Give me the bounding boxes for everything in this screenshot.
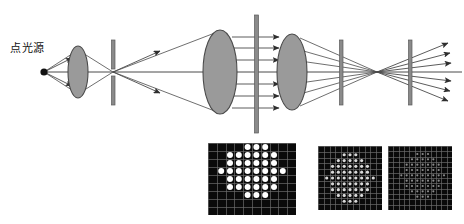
focusing-lens <box>277 34 307 110</box>
optical-diagram: 点光源 <box>0 0 464 224</box>
expanding-ray-upper-arrow <box>113 51 160 72</box>
spot-array-panel-mid <box>318 146 382 210</box>
collimating-lens-large <box>203 30 237 114</box>
grating-plate <box>255 15 259 133</box>
expanding-ray-lower-arrow <box>113 72 160 93</box>
spot-array-panels <box>0 140 464 224</box>
spot-array-panel-near <box>208 143 296 215</box>
output-ray-2 <box>377 53 450 72</box>
stop-aperture <box>340 40 344 105</box>
collimator-lens-small <box>68 46 88 98</box>
output-aperture <box>409 40 413 105</box>
converging-ray-5 <box>300 72 377 94</box>
pinhole-aperture-upper <box>112 40 116 69</box>
point-source-dot <box>40 68 47 75</box>
point-source-label: 点光源 <box>10 42 45 55</box>
output-ray-5 <box>377 72 450 91</box>
converging-ray-2 <box>300 50 377 72</box>
pinhole-aperture-lower <box>112 76 116 105</box>
spot-array-panel-far <box>388 146 452 210</box>
barrier-group <box>112 15 413 133</box>
